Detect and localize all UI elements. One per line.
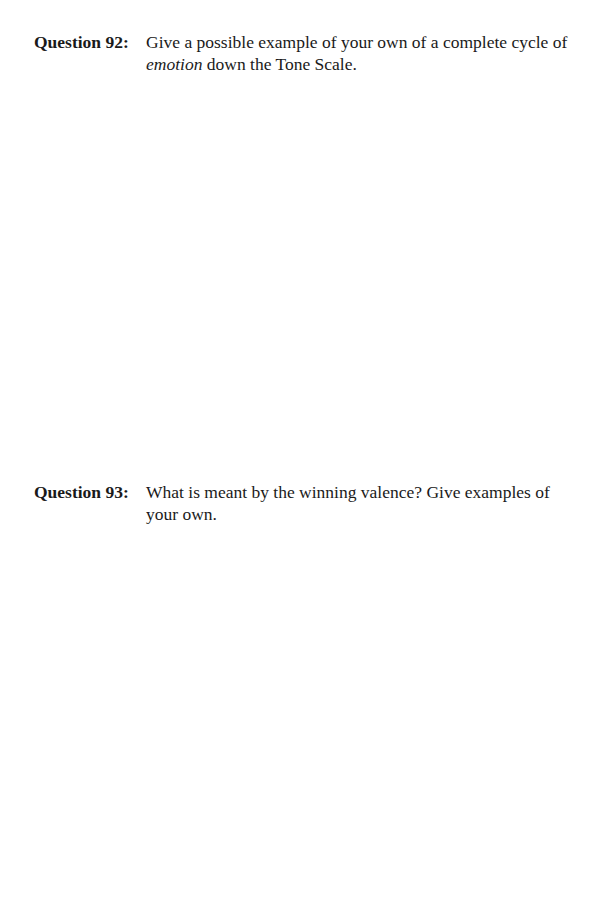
- question-text: Give a possible example of your own of a…: [146, 31, 581, 75]
- question-label: Question 92:: [34, 31, 129, 53]
- answer-space-92: [146, 85, 576, 465]
- question-text-part: down the Tone Scale.: [202, 54, 356, 74]
- question-label: Question 93:: [34, 481, 129, 503]
- question-text: What is meant by the winning valence? Gi…: [146, 481, 581, 525]
- question-text-emphasis: emotion: [146, 54, 202, 74]
- answer-space-93: [146, 535, 576, 905]
- question-text-part: Give a possible example of your own of a…: [146, 32, 567, 52]
